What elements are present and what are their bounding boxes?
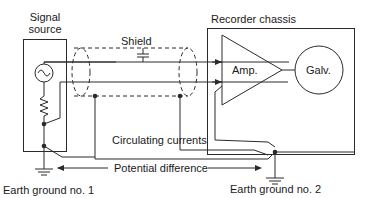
recorder-chassis-label: Recorder chassis (211, 13, 296, 25)
galv-label: Galv. (306, 64, 331, 76)
arrow-right-icon (255, 165, 262, 171)
potential-difference-label: Potential difference (114, 162, 208, 174)
shield-label: Shield (121, 35, 152, 47)
signal-source-line1: Signal (18, 11, 72, 23)
resistor-icon (40, 96, 48, 124)
recorder-chassis-box (208, 29, 355, 155)
earth-ground-2-label: Earth ground no. 2 (230, 183, 321, 195)
sine-wave-icon (38, 70, 50, 76)
arrow-left-icon (57, 165, 64, 171)
amp-label: Amp. (232, 64, 258, 76)
circulating-currents-label: Circulating currents (112, 134, 207, 146)
earth-ground-1-label: Earth ground no. 1 (3, 184, 94, 196)
signal-source-line2: source (18, 23, 72, 35)
earth-ground-1-icon (35, 169, 53, 175)
signal-source-label: Signal source (18, 11, 72, 35)
